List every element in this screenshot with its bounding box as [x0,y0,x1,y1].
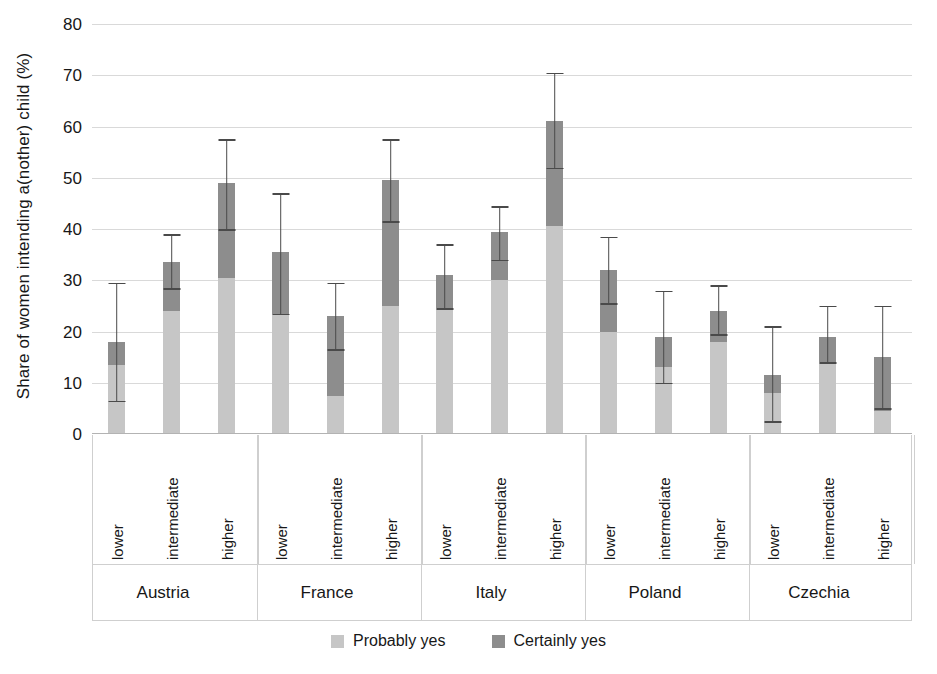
category-label-lower: lower [602,524,617,560]
error-cap-lower [655,383,672,385]
segment-probably-yes [163,311,180,434]
gridline-50 [92,178,912,179]
country-separator [749,565,750,620]
error-cap-lower [491,260,508,262]
country-label-poland: Poland [629,583,682,603]
y-tick-label-20: 20 [34,323,82,340]
segment-probably-yes [710,342,727,434]
y-axis-title: Share of women intending a(nother) child… [14,16,34,436]
error-cap-upper [710,285,727,287]
y-tick-label-40: 40 [34,221,82,238]
country-label-austria: Austria [137,583,190,603]
error-bar-poland-higher [718,285,720,334]
category-label-lower: lower [274,524,289,560]
category-inner-separator [750,435,751,564]
error-bar-france-higher [390,139,392,221]
error-cap-upper [272,193,289,195]
error-bar-france-lower [280,193,282,313]
segment-probably-yes [819,362,836,434]
error-cap-lower [218,229,235,231]
category-inner-separator [914,435,915,564]
category-label-higher: higher [876,518,891,560]
segment-probably-yes [436,308,453,434]
segment-probably-yes [272,314,289,434]
error-bar-czechia-lower [772,326,774,421]
error-cap-upper [874,306,891,308]
legend-item-probably-yes: Probably yes [331,633,446,649]
y-tick-label-60: 60 [34,118,82,135]
category-inner-separator [258,435,259,564]
error-cap-upper [655,291,672,293]
category-label-higher: higher [220,518,235,560]
error-cap-lower [710,334,727,336]
country-separator [585,565,586,620]
legend-label: Certainly yes [514,633,606,649]
category-label-lower: lower [110,524,125,560]
error-cap-lower [108,401,125,403]
chart-container: Share of women intending a(nother) child… [0,0,937,674]
country-label-france: France [301,583,354,603]
error-bar-italy-lower [444,244,446,308]
y-tick-label-10: 10 [34,374,82,391]
y-tick-label-50: 50 [34,169,82,186]
segment-probably-yes [218,278,235,434]
error-bar-poland-lower [608,237,610,304]
segment-probably-yes [874,411,891,434]
category-inner-separator [586,435,587,564]
error-cap-lower [600,303,617,305]
legend-item-certainly-yes: Certainly yes [492,633,606,649]
y-tick-label-70: 70 [34,67,82,84]
error-bar-austria-lower [116,283,118,401]
error-cap-upper [546,73,563,75]
x-axis-baseline [92,433,912,434]
error-bar-austria-intermediate [171,234,173,288]
error-cap-lower [819,362,836,364]
segment-probably-yes [546,226,563,434]
category-label-intermediate: intermediate [329,477,344,560]
country-separator [421,565,422,620]
country-label-italy: Italy [475,583,506,603]
error-cap-upper [764,326,781,328]
error-cap-lower [874,408,891,410]
country-label-czechia: Czechia [788,583,849,603]
y-tick-label-0: 0 [34,426,82,443]
error-bar-czechia-intermediate [827,306,829,362]
category-label-lower: lower [438,524,453,560]
error-bar-czechia-higher [882,306,884,409]
bar-italy-intermediate [491,232,508,434]
category-label-intermediate: intermediate [821,477,836,560]
category-label-higher: higher [548,518,563,560]
category-label-intermediate: intermediate [657,477,672,560]
gridline-60 [92,127,912,128]
plot-area: 01020304050607080 [92,24,912,434]
category-label-higher: higher [712,518,727,560]
error-cap-upper [382,139,399,141]
chart-legend: Probably yesCertainly yes [0,633,937,649]
error-cap-lower [764,421,781,423]
error-cap-upper [491,206,508,208]
error-cap-upper [108,283,125,285]
error-bar-austria-higher [226,139,228,229]
error-cap-lower [272,314,289,316]
error-bar-poland-intermediate [663,291,665,383]
category-label-higher: higher [384,518,399,560]
y-tick-label-80: 80 [34,16,82,33]
error-cap-lower [327,349,344,351]
error-cap-lower [546,168,563,170]
gridline-40 [92,229,912,230]
error-bar-italy-intermediate [499,206,501,260]
error-cap-upper [819,306,836,308]
category-label-intermediate: intermediate [165,477,180,560]
category-label-intermediate: intermediate [493,477,508,560]
legend-swatch-icon [331,635,344,648]
category-inner-separator [422,435,423,564]
error-cap-upper [436,244,453,246]
error-cap-upper [327,283,344,285]
error-cap-lower [382,221,399,223]
error-cap-upper [218,139,235,141]
error-bar-italy-higher [554,73,556,168]
segment-probably-yes [382,306,399,434]
gridline-70 [92,75,912,76]
error-cap-upper [600,237,617,239]
legend-label: Probably yes [353,633,446,649]
